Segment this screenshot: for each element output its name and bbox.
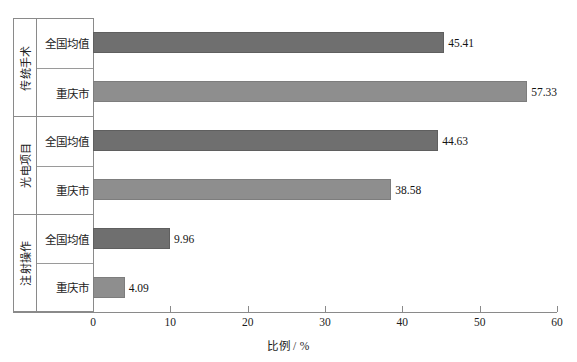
x-tick-mark [93, 306, 94, 312]
category-label-national-3: 全国均值 [37, 215, 93, 263]
x-tick-label: 0 [90, 316, 96, 328]
category-label-chongqing-3: 重庆市 [37, 263, 93, 311]
axis-group-block: 光电项目 全国均值 重庆市 [14, 116, 93, 213]
x-axis-title: 比例 / % [0, 337, 577, 353]
axis-group-block: 传统手术 全国均值 重庆市 [14, 19, 93, 116]
x-tick-mark [402, 306, 403, 312]
group-label-injection-operation: 注射操作 [17, 240, 33, 286]
category-label-national-2: 全国均值 [37, 117, 93, 165]
axis-group-block: 注射操作 全国均值 重庆市 [14, 214, 93, 311]
category-label-chongqing-1: 重庆市 [37, 68, 93, 117]
x-axis-line [13, 312, 557, 313]
x-tick-mark [557, 306, 558, 312]
category-label-cell: 全国均值 重庆市 [36, 19, 93, 116]
x-tick-label: 30 [319, 316, 331, 328]
group-label-traditional-surgery: 传统手术 [17, 45, 33, 91]
x-tick-mark [248, 306, 249, 312]
category-label-national-1: 全国均值 [37, 19, 93, 68]
bar-chart-figure: 传统手术 全国均值 重庆市 光电项目 全国均值 重庆市 注射操作 全国均值 重庆… [0, 0, 577, 362]
group-label-photoelectric-project: 光电项目 [17, 143, 33, 189]
x-tick-label: 50 [474, 316, 486, 328]
group-label-cell: 光电项目 [14, 117, 36, 213]
x-tick-mark [170, 306, 171, 312]
category-label-cell: 全国均值 重庆市 [36, 117, 93, 213]
category-label-chongqing-2: 重庆市 [37, 166, 93, 214]
y-axis-group-column: 传统手术 全国均值 重庆市 光电项目 全国均值 重庆市 注射操作 全国均值 重庆… [13, 18, 93, 312]
x-tick-label: 10 [165, 316, 177, 328]
x-tick-label: 60 [551, 316, 563, 328]
category-label-cell: 全国均值 重庆市 [36, 215, 93, 311]
x-tick-mark [325, 306, 326, 312]
x-tick-label: 40 [397, 316, 409, 328]
group-label-cell: 传统手术 [14, 19, 36, 116]
x-tick-mark [480, 306, 481, 312]
x-tick-label: 20 [242, 316, 254, 328]
plot-area [93, 18, 558, 312]
group-label-cell: 注射操作 [14, 215, 36, 311]
